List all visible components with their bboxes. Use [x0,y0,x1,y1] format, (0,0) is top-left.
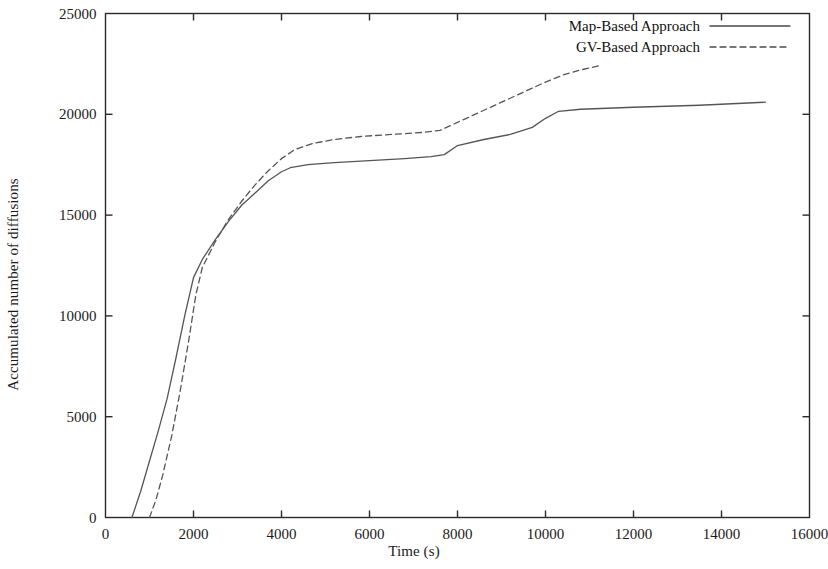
x-tick-label: 14000 [703,526,741,543]
chart-figure: 0200040006000800010000120001400016000050… [0,0,828,569]
x-tick-label: 8000 [443,526,473,543]
x-tick-label: 4000 [267,526,297,543]
x-tick-label: 16000 [791,526,828,543]
x-tick-label: 12000 [615,526,653,543]
y-tick-label: 25000 [59,5,97,22]
data-series-layer [132,66,766,518]
plot-frame [106,14,810,518]
y-axis-title: Accumulated number of diffusions [0,0,26,569]
x-tick-label: 2000 [179,526,209,543]
series-line-1 [132,102,766,517]
x-tick-label: 10000 [527,526,565,543]
legend-label-1: Map-Based Approach [569,18,700,35]
y-tick-label: 20000 [59,106,97,123]
legend-sample-lines [710,26,790,47]
axis-tick-marks [106,14,810,518]
line-chart-canvas [0,0,828,569]
legend-label-2: GV-Based Approach [576,39,700,56]
x-axis-title: Time (s) [0,543,828,560]
y-tick-label: 15000 [59,207,97,224]
y-tick-label: 10000 [59,307,97,324]
x-tick-label: 0 [102,526,110,543]
y-tick-label: 0 [89,509,97,526]
x-tick-label: 6000 [355,526,385,543]
series-line-2 [150,66,599,518]
y-tick-label: 5000 [67,408,97,425]
